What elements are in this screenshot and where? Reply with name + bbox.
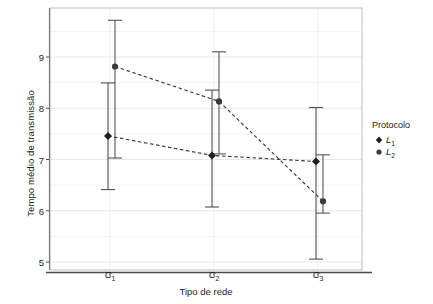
- legend-diamond-icon: [372, 135, 386, 145]
- legend-label-l1: L1: [386, 134, 395, 147]
- x-tick-c2: C2: [209, 269, 220, 282]
- x-tick-c3: C3: [313, 269, 324, 282]
- x-tick-c2-sub: 2: [216, 275, 220, 282]
- x-tick-c3-base: C: [313, 269, 320, 280]
- legend-label-l2: L2: [386, 146, 395, 159]
- x-tick-c1-sub: 1: [112, 275, 116, 282]
- legend-label-l2-sub: 2: [391, 151, 395, 158]
- x-tick-c2-base: C: [209, 269, 216, 280]
- legend: Protocolo L1 L2: [372, 120, 410, 158]
- chart-figure: 9 8 7 6 5 C1 C2 C3 Tipo de rede Tempo mé…: [0, 0, 433, 304]
- legend-circle-icon: [372, 147, 386, 157]
- x-tick-c1-base: C: [105, 269, 112, 280]
- y-axis-title: Tempo médio de transmissão: [25, 44, 36, 264]
- panel-background: [50, 8, 362, 270]
- legend-item-l2[interactable]: L2: [372, 146, 410, 158]
- x-axis-title: Tipo de rede: [50, 286, 362, 297]
- legend-item-l1[interactable]: L1: [372, 134, 410, 146]
- x-tick-c1: C1: [105, 269, 116, 282]
- plot-area: [0, 0, 433, 304]
- x-tick-c3-sub: 3: [320, 275, 324, 282]
- legend-title: Protocolo: [372, 120, 410, 130]
